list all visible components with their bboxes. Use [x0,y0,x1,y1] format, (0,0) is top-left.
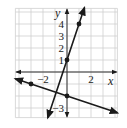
y-tick-label: 1 [59,54,65,66]
data-point [29,82,34,87]
data-point [65,58,70,63]
y-tick-label: 2 [59,42,65,54]
y-tick-label: −3 [52,102,64,114]
x-axis-label: x [107,74,114,88]
y-axis-label: y [54,6,61,20]
x-tick-label: −2 [37,73,49,85]
data-point [77,22,82,27]
coordinate-plane: −221234−3 x y [0,0,127,128]
y-tick-label: 3 [59,30,65,42]
x-tick-label: 2 [88,73,94,85]
data-point [65,94,70,99]
